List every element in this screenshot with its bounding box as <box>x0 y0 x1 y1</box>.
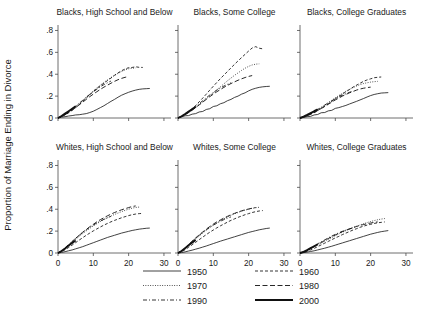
y-tick-label: .4 <box>46 205 53 214</box>
y-tick-label: .4 <box>46 70 53 79</box>
y-tick-label: .2 <box>46 92 53 101</box>
x-tick-label: 0 <box>176 259 181 268</box>
panel-5: Whites, College Graduates0102030 <box>297 142 413 268</box>
series-line-1950 <box>178 228 270 253</box>
series-line-1950 <box>300 93 388 118</box>
y-axis-label: Proportion of Marriage Ending in Divorce <box>2 59 13 231</box>
x-tick-label: 20 <box>366 259 376 268</box>
series-line-1960 <box>300 222 385 253</box>
legend-label-1980: 1980 <box>299 281 319 291</box>
y-tick-label: 0 <box>48 114 53 123</box>
series-line-1970 <box>58 207 139 253</box>
series-line-1970 <box>178 207 259 253</box>
series-line-1960 <box>178 47 263 118</box>
legend-label-1950: 1950 <box>187 267 207 277</box>
panel-1: Blacks, Some College <box>175 7 291 121</box>
y-tick-label: .8 <box>46 161 53 170</box>
panel-4: Whites, Some College0102030 <box>175 142 291 268</box>
panel-title: Blacks, Some College <box>194 7 276 17</box>
series-line-1980 <box>178 208 256 253</box>
x-tick-label: 20 <box>124 259 134 268</box>
panel-title: Whites, College Graduates <box>306 142 406 152</box>
panel-3: Whites, High School and Below0.2.4.6.801… <box>46 142 174 268</box>
panel-2: Blacks, College Graduates <box>297 7 413 121</box>
x-tick-label: 30 <box>401 259 411 268</box>
panel-title: Whites, High School and Below <box>56 142 174 152</box>
legend-label-2000: 2000 <box>299 296 319 306</box>
y-tick-label: .6 <box>46 183 53 192</box>
legend-label-1990: 1990 <box>187 296 207 306</box>
x-tick-label: 10 <box>89 259 99 268</box>
legend-label-1960: 1960 <box>299 267 319 277</box>
chart-legend: 195019601970198019902000 <box>143 267 319 306</box>
panel-title: Blacks, College Graduates <box>307 7 406 17</box>
y-tick-label: .6 <box>46 48 53 57</box>
y-tick-label: 0 <box>48 249 53 258</box>
x-tick-label: 30 <box>279 259 289 268</box>
x-tick-label: 30 <box>159 259 169 268</box>
x-tick-label: 10 <box>209 259 219 268</box>
panel-0: Blacks, High School and Below0.2.4.6.8 <box>46 7 173 123</box>
y-tick-label: .8 <box>46 26 53 35</box>
legend-label-1970: 1970 <box>187 281 207 291</box>
y-tick-label: .2 <box>46 227 53 236</box>
series-line-1950 <box>300 231 388 253</box>
x-tick-label: 10 <box>331 259 341 268</box>
divorce-proportion-figure: Proportion of Marriage Ending in Divorce… <box>0 0 430 317</box>
series-line-2000 <box>178 107 196 118</box>
panel-title: Blacks, High School and Below <box>57 7 174 17</box>
panel-grid: Blacks, High School and Below0.2.4.6.8Bl… <box>46 7 413 268</box>
x-tick-label: 0 <box>56 259 61 268</box>
series-line-1950 <box>178 86 270 118</box>
series-line-1950 <box>58 228 150 253</box>
series-line-1950 <box>58 88 150 118</box>
panel-title: Whites, Some College <box>193 142 276 152</box>
x-tick-label: 20 <box>244 259 254 268</box>
